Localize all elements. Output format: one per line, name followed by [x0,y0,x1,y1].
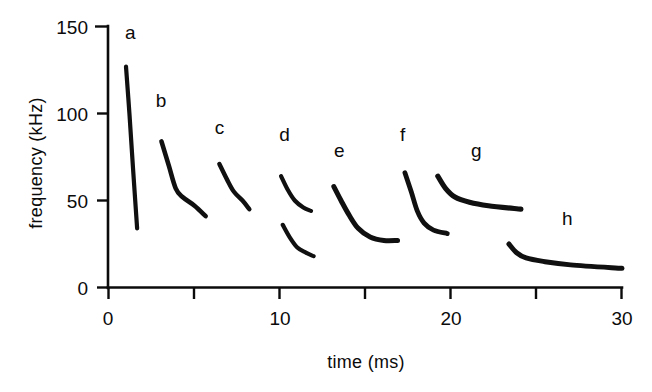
curve-d-upper [281,176,311,211]
call-sweep-curves [126,67,622,269]
y-tick-label-100: 100 [56,104,88,125]
curve-a [126,67,137,229]
curve-label-d: d [279,124,290,145]
x-axis [108,288,622,300]
curve-label-g: g [471,140,482,161]
y-tick-label-0: 0 [77,278,88,299]
x-tick-label-20: 20 [440,308,461,329]
x-tick-label-10: 10 [269,308,290,329]
curve-h [509,244,622,268]
curve-label-a: a [125,22,136,43]
curve-label-b: b [156,90,167,111]
chart-canvas: 150 100 50 0 0 10 20 30 frequency (kHz) … [0,0,652,392]
curve-e [334,187,398,241]
curve-label-e: e [334,140,345,161]
curve-d-lower [283,225,314,256]
y-axis [95,26,108,288]
curve-label-c: c [215,117,225,138]
x-tick-label-30: 30 [611,308,632,329]
x-axis-title: time (ms) [327,352,405,372]
echolocation-frequency-chart: 150 100 50 0 0 10 20 30 frequency (kHz) … [0,0,652,392]
y-axis-title: frequency (kHz) [26,97,46,229]
x-tick-label-0: 0 [103,308,114,329]
curve-label-group: abcdefgh [125,22,572,229]
curve-b [161,141,205,216]
curve-g [438,176,521,209]
curve-label-h: h [562,208,573,229]
y-tick-label-150: 150 [56,17,88,38]
curve-c [219,164,249,209]
y-tick-label-50: 50 [67,191,88,212]
curve-label-f: f [400,124,406,145]
